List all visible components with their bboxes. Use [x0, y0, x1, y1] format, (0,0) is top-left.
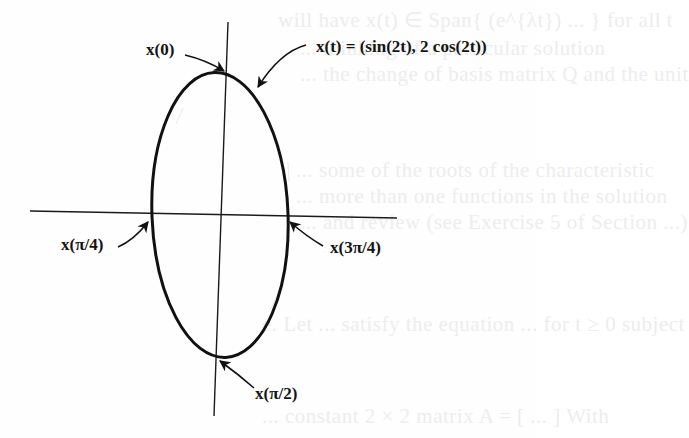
direction-arrow-right-upper [288, 162, 289, 182]
direction-arrow-left-upper [176, 108, 183, 124]
label-x-pi-over-2: x(π/2) [255, 384, 297, 404]
pointer-arrow-x0 [185, 55, 224, 71]
horizontal-axis [30, 211, 397, 218]
pointer-arrow-x-3pi-4 [290, 222, 323, 246]
label-x-pi-over-4: x(π/4) [61, 235, 103, 255]
pointer-arrow-x-pi-2 [220, 361, 254, 388]
label-x-3pi-over-4: x(3π/4) [330, 238, 381, 258]
pointer-arrow-x-pi-4 [118, 222, 148, 247]
label-equation: x(t) = (sin(2t), 2 cos(2t)) [316, 37, 487, 57]
label-x0: x(0) [146, 40, 174, 60]
pointer-arrow-equation [258, 45, 306, 87]
